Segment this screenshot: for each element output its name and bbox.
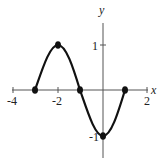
x-axis-label: x <box>150 83 157 97</box>
tick-label-y: 1 <box>92 39 98 53</box>
tick-label-x: -4 <box>7 94 17 108</box>
tick-label-x: 2 <box>144 94 150 108</box>
point-marker <box>55 41 61 49</box>
point-marker <box>77 86 83 94</box>
graph: -4 -2 2 1 -1 x y <box>0 0 162 161</box>
y-axis-label: y <box>98 3 105 17</box>
point-marker <box>122 86 128 94</box>
point-marker <box>32 86 38 94</box>
tick-label-x: -2 <box>52 94 62 108</box>
point-marker <box>100 132 106 140</box>
